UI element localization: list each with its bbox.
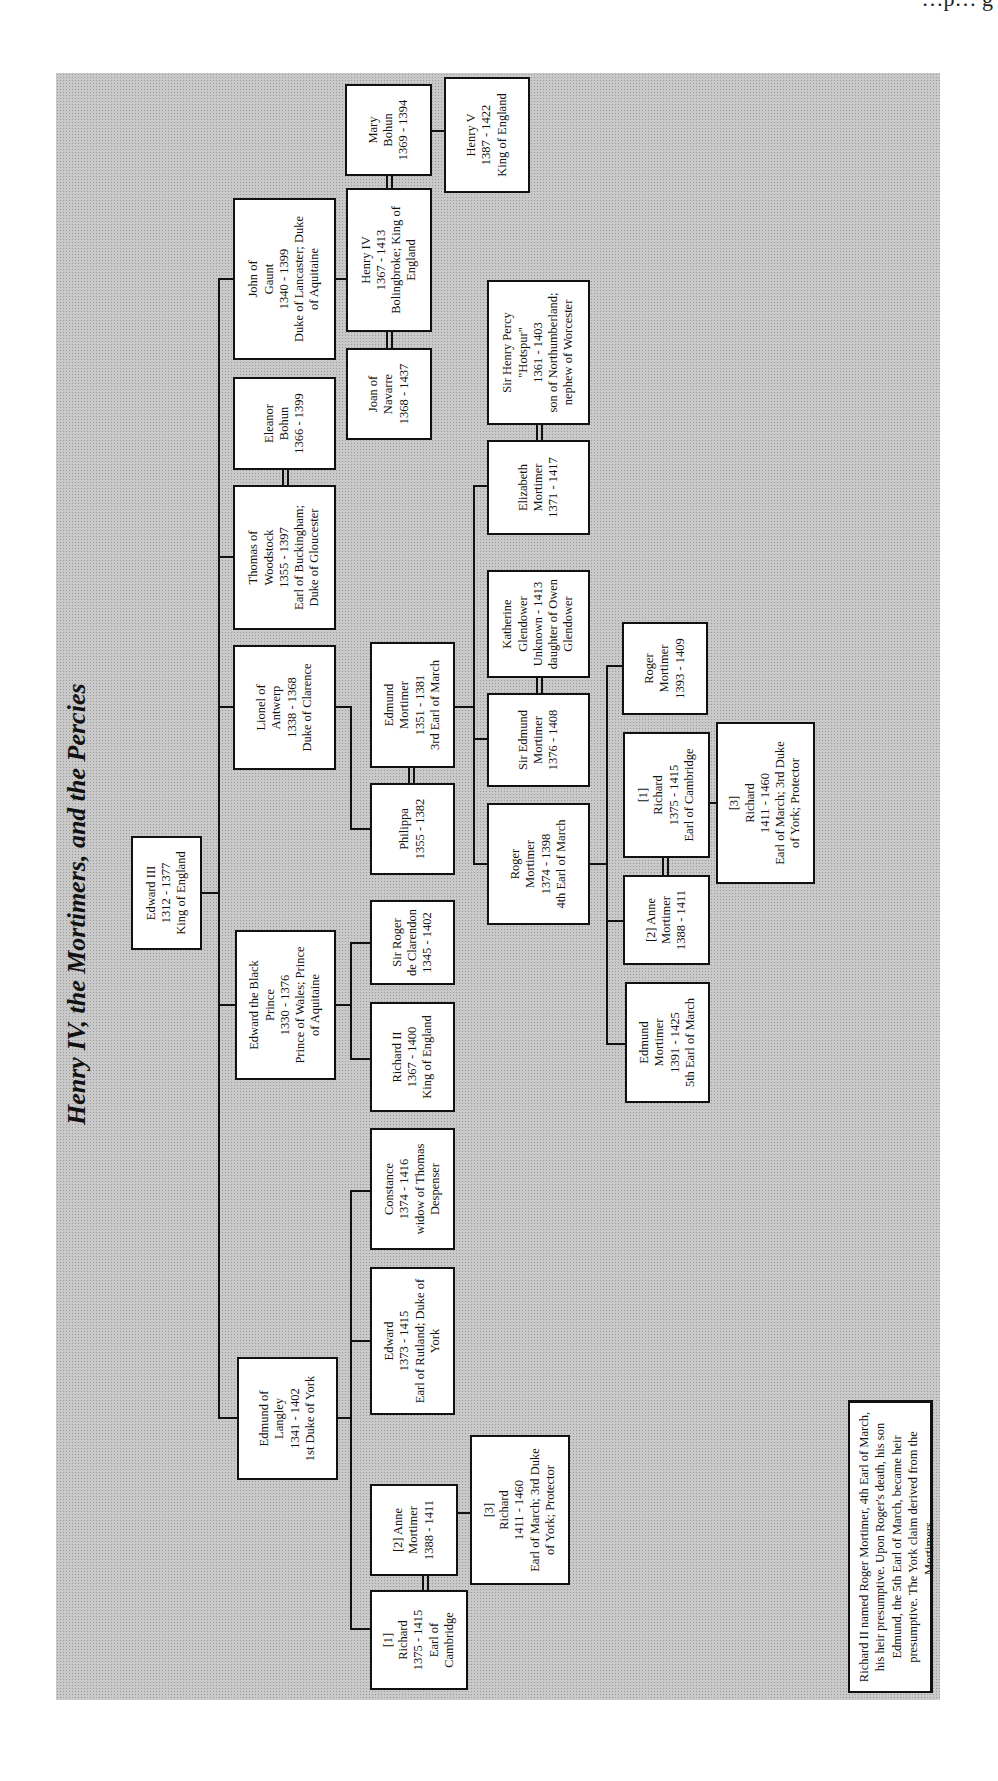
person-constance: Constance1374 - 1416widow of ThomasDespe…: [370, 1128, 455, 1250]
person-roger-mortimer-4th-earl: RogerMortimer1374 - 13984th Earl of Marc…: [487, 803, 590, 925]
connector: [218, 1417, 237, 1419]
connector: [473, 485, 487, 487]
person-john-of-gaunt: John ofGaunt1340 - 1399Duke of Lancaster…: [233, 198, 336, 360]
marriage-connector: [386, 332, 393, 348]
person-edmund-mortimer-5th-earl: EdmundMortimer1391 - 14255th Earl of Mar…: [625, 982, 710, 1103]
person-henry-v: Henry V1387 - 1422King of England: [444, 77, 530, 193]
person-sir-roger-de-clarendon: Sir Rogerde Clarendon1345 - 1402: [370, 900, 455, 985]
person-philippa: Philippa1355 - 1382: [370, 783, 455, 875]
connector: [218, 278, 220, 1419]
connector: [218, 556, 233, 558]
person-anne-mortimer: [2] AnneMortimer1388 - 1411: [623, 875, 710, 965]
connector: [336, 1004, 350, 1006]
connector: [455, 706, 473, 708]
footnote-box: Richard II named Roger Mortimer, 4th Ear…: [848, 1400, 933, 1693]
connector: [350, 828, 370, 830]
person-edward-iii: Edward III1312 - 1377King of England: [131, 836, 202, 950]
person-joan-of-navarre: Joan ofNavarre1368 - 1437: [346, 348, 432, 440]
marriage-connector: [282, 470, 289, 485]
marriage-connector: [408, 768, 415, 783]
connector: [350, 942, 352, 1060]
person-lionel-of-antwerp: Lionel ofAntwerp1338 - 1368Duke of Clare…: [233, 645, 336, 770]
person-sir-edmund-mortimer: Sir EdmundMortimer1376 - 1408: [487, 693, 590, 787]
person-edward-black-prince: Edward the BlackPrince1330 - 1376Prince …: [235, 930, 336, 1080]
marriage-connector: [386, 176, 393, 188]
person-eleanor-bohun: EleanorBohun1366 - 1399: [233, 377, 336, 470]
marriage-connector: [536, 678, 543, 693]
connector: [336, 706, 350, 708]
person-roger-mortimer-1393: RogerMortimer1393 - 1409: [622, 622, 708, 715]
person-richard-earl-of-cambridge-york-branch: [1]Richard1375 - 1415Earl of Cambridge: [370, 1590, 468, 1690]
connector: [458, 1512, 470, 1514]
connector: [350, 1628, 370, 1630]
person-edward-duke-of-york: Edward1373 - 1415Earl of Rutland; Duke o…: [370, 1267, 455, 1415]
connector: [350, 1340, 370, 1342]
marriage-connector: [422, 1576, 429, 1590]
person-anne-mortimer-york-branch: [2] AnneMortimer1388 - 1411: [370, 1484, 458, 1576]
marriage-connector: [662, 858, 669, 875]
person-henry-iv: Henry IV1367 - 1413Bolingbroke; King ofE…: [346, 188, 432, 332]
connector: [606, 920, 623, 922]
connector: [350, 1190, 352, 1630]
connector: [473, 863, 487, 865]
person-edmund-of-langley: Edmund ofLangley1341 - 14021st Duke of Y…: [237, 1357, 338, 1480]
marriage-connector: [536, 425, 543, 440]
person-richard-duke-of-york: [3]Richard1411 - 1460Earl of March; 3rd …: [716, 722, 815, 884]
person-mary-bohun: MaryBohun1369 - 1394: [345, 84, 432, 176]
person-richard-earl-of-cambridge: [1]Richard1375 - 1415Earl of Cambridge: [623, 732, 710, 858]
connector: [473, 738, 487, 740]
connector: [350, 1190, 370, 1192]
person-thomas-of-woodstock: Thomas ofWoodstock1355 - 1397Earl of Buc…: [233, 485, 336, 630]
connector: [350, 942, 370, 944]
cropped-header-text: …p… g: [600, 0, 998, 10]
connector: [350, 1058, 370, 1060]
connector: [218, 1004, 235, 1006]
connector: [606, 665, 608, 1045]
connector: [473, 485, 475, 865]
connector: [432, 130, 444, 132]
connector: [218, 278, 233, 280]
person-richard-ii: Richard II1367 - 1400King of England: [370, 1002, 455, 1112]
person-richard-duke-of-york-york-branch: [3]Richard1411 - 1460Earl of March; 3rd …: [470, 1435, 570, 1585]
connector: [336, 278, 346, 280]
connector: [590, 863, 606, 865]
family-tree: Edward III1312 - 1377King of England Edm…: [56, 73, 940, 1700]
person-elizabeth-mortimer: ElizabethMortimer1371 - 1417: [487, 440, 590, 535]
connector: [606, 665, 622, 667]
connector: [606, 1043, 625, 1045]
connector: [218, 706, 233, 708]
person-edmund-mortimer-3rd-earl: EdmundMortimer1351 - 13813rd Earl of Mar…: [370, 642, 455, 768]
person-katherine-glendower: KatherineGlendowerUnknown - 1413daughter…: [487, 570, 590, 678]
connector: [350, 706, 352, 830]
person-sir-henry-percy-hotspur: Sir Henry Percy"Hotspur"1361 - 1403son o…: [487, 280, 590, 425]
